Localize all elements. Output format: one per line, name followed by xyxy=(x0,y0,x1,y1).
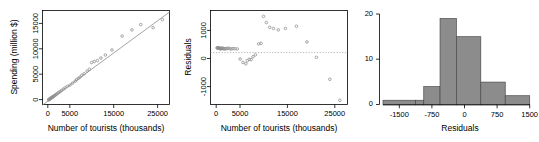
x-axis-title: Residuals xyxy=(441,123,478,133)
panel-residuals-histogram: 0 10 20 -1500 -750 0 750 1500 xyxy=(355,0,539,142)
data-point xyxy=(260,42,263,45)
x-axis-title: Number of tourists (thousands) xyxy=(221,123,338,133)
panel-residuals-scatter: -1000 0 1000 0 5000 15000 25000 Number o… xyxy=(177,0,357,142)
x-tick-label: 750 xyxy=(491,110,504,119)
y-tick-label: 0 xyxy=(369,99,373,108)
x-tick-label: 0 xyxy=(46,109,50,118)
histogram-bar xyxy=(416,100,424,105)
histogram-bar xyxy=(505,96,529,105)
x-tick-label: 1500 xyxy=(521,110,538,119)
data-point xyxy=(242,61,245,64)
data-point xyxy=(329,78,332,81)
data-point xyxy=(265,21,268,24)
data-point xyxy=(236,48,239,51)
data-point xyxy=(315,56,318,59)
x-tick-label: 5000 xyxy=(61,109,78,118)
y-tick-label: 5000 xyxy=(31,66,40,83)
data-point xyxy=(239,58,242,61)
data-point xyxy=(161,18,164,21)
data-point xyxy=(100,57,103,60)
data-point xyxy=(90,61,93,64)
data-point xyxy=(93,60,96,63)
y-axis-tick-labels: 0 10 20 xyxy=(365,9,373,109)
x-axis-tick-labels: -1500 -750 0 750 1500 xyxy=(390,110,538,119)
y-tick-label: 10 xyxy=(365,54,373,63)
data-point xyxy=(277,29,280,32)
data-point xyxy=(66,85,69,88)
y-axis-title: Spending (million $) xyxy=(9,19,19,94)
x-tick-label: 15000 xyxy=(103,109,124,118)
plot-frame xyxy=(211,11,348,105)
x-axis-ticks xyxy=(48,105,158,109)
multi-panel-figure: 0 5000 10000 15000 0 5000 15000 25000 Nu… xyxy=(0,0,539,142)
histogram-bar xyxy=(456,37,480,105)
histogram-bar xyxy=(440,19,456,105)
x-tick-label: 25000 xyxy=(324,109,345,118)
x-tick-label: 5000 xyxy=(232,109,249,118)
data-point xyxy=(88,68,91,71)
data-point xyxy=(252,56,255,59)
y-tick-label: 10000 xyxy=(31,38,40,59)
x-axis-tick-labels: 0 5000 15000 25000 xyxy=(46,109,168,118)
data-point xyxy=(96,59,99,62)
data-point xyxy=(250,58,253,61)
data-point xyxy=(339,99,342,102)
data-point xyxy=(245,63,248,66)
y-tick-label: 20 xyxy=(365,9,373,18)
data-point xyxy=(295,25,298,28)
data-points-layer xyxy=(47,18,163,101)
histogram-bar xyxy=(383,100,416,105)
histogram-bar xyxy=(481,82,505,105)
histogram-bars-layer xyxy=(383,19,530,105)
data-points-layer xyxy=(216,15,341,102)
data-point xyxy=(272,27,275,30)
y-axis-ticks xyxy=(39,23,43,99)
y-tick-label: -1000 xyxy=(199,77,208,96)
data-point xyxy=(262,15,265,18)
scatter-plot-spending: 0 5000 10000 15000 0 5000 15000 25000 Nu… xyxy=(0,0,180,142)
scatter-plot-residuals: -1000 0 1000 0 5000 15000 25000 Number o… xyxy=(177,0,357,142)
panel-spending-scatter: 0 5000 10000 15000 0 5000 15000 25000 Nu… xyxy=(0,0,180,142)
y-tick-label: 1000 xyxy=(199,22,208,39)
histogram-residuals: 0 10 20 -1500 -750 0 750 1500 xyxy=(355,0,539,142)
y-tick-label: 15000 xyxy=(31,13,40,34)
data-point xyxy=(83,73,86,76)
data-point xyxy=(121,35,124,38)
data-point xyxy=(306,41,309,44)
data-point xyxy=(104,54,107,57)
x-tick-label: -750 xyxy=(424,110,439,119)
y-tick-label: 0 xyxy=(199,56,208,60)
histogram-bar xyxy=(424,87,440,105)
data-point xyxy=(131,29,134,32)
x-tick-label: 15000 xyxy=(277,109,298,118)
x-axis-title: Number of tourists (thousands) xyxy=(48,123,165,133)
x-tick-label: 25000 xyxy=(147,109,168,118)
y-axis-tick-labels: 0 5000 10000 15000 xyxy=(31,13,40,102)
data-point xyxy=(139,23,142,26)
y-tick-label: 0 xyxy=(31,98,40,102)
x-axis-ticks xyxy=(399,105,529,109)
x-tick-label: 0 xyxy=(214,109,218,118)
data-point xyxy=(152,26,155,29)
y-axis-tick-labels: -1000 0 1000 xyxy=(199,22,208,96)
data-point xyxy=(254,54,257,57)
x-axis-ticks xyxy=(216,105,335,109)
data-point xyxy=(111,49,114,52)
data-point xyxy=(284,27,287,30)
x-axis-tick-labels: 0 5000 15000 25000 xyxy=(214,109,345,118)
y-axis-ticks xyxy=(376,14,380,105)
y-axis-title: Residuals xyxy=(183,38,193,75)
data-point xyxy=(268,26,271,29)
x-tick-label: 0 xyxy=(462,110,466,119)
x-tick-label: -1500 xyxy=(390,110,409,119)
